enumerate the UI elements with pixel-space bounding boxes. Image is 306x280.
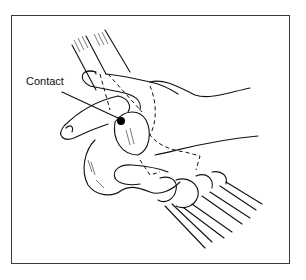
heel-bones xyxy=(84,112,180,195)
contact-point xyxy=(117,117,125,125)
hand xyxy=(61,71,258,155)
illustration xyxy=(0,0,306,280)
forearm xyxy=(72,30,130,90)
contact-leader-line xyxy=(62,92,118,118)
contact-label: Contact xyxy=(26,75,64,87)
foot-bones xyxy=(158,172,262,248)
